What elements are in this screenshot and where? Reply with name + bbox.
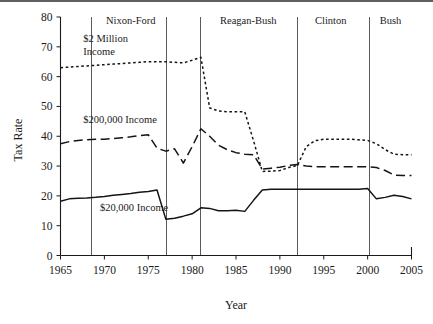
y-tick-label: 50 <box>41 100 53 112</box>
era-label-group: Nixon-FordReagan-BushClintonBush <box>106 15 402 26</box>
series-line-200-000-income <box>61 129 412 176</box>
series-path-group <box>61 57 412 219</box>
chart-canvas: Nixon-FordReagan-BushClintonBush 0102030… <box>0 0 433 324</box>
2-million-income-label: $2 MillionIncome <box>83 33 128 57</box>
x-tick-label: 1980 <box>181 264 204 276</box>
era-label-reagan-bush: Reagan-Bush <box>220 15 277 26</box>
series-annotation-group: $2 MillionIncome$200,000 Income$20,000 I… <box>83 33 168 212</box>
x-tick-label: 1965 <box>49 264 72 276</box>
era-label-bush: Bush <box>380 15 402 26</box>
x-tick-label: 1975 <box>137 264 160 276</box>
x-tick-label: 1995 <box>312 264 335 276</box>
y-tick-label: 60 <box>41 71 53 83</box>
y-tick-label: 10 <box>41 220 53 232</box>
20000-income-label: $20,000 Income <box>100 202 169 213</box>
x-tick-label: 1985 <box>225 264 248 276</box>
x-axis-title: Year <box>225 298 247 312</box>
x-tick-label: 1990 <box>268 264 291 276</box>
era-label-clinton: Clinton <box>315 15 347 26</box>
x-tick-label: 1970 <box>93 264 116 276</box>
y-tick-group: 01020304050607080 <box>41 11 61 262</box>
x-tick-label: 2000 <box>356 264 379 276</box>
y-tick-label: 30 <box>41 160 53 172</box>
era-label-nixon-ford: Nixon-Ford <box>106 15 156 26</box>
y-axis-title: Tax Rate <box>11 119 25 162</box>
y-tick-label: 70 <box>41 41 53 53</box>
200000-income-label: $200,000 Income <box>83 114 157 125</box>
y-tick-label: 40 <box>41 130 53 142</box>
y-tick-label: 20 <box>41 190 53 202</box>
x-tick-group: 196519701975198019851990199520002005 <box>49 256 423 276</box>
tax-rate-chart-figure: Nixon-FordReagan-BushClintonBush 0102030… <box>0 0 433 324</box>
y-tick-label: 80 <box>41 11 53 23</box>
y-tick-label: 0 <box>47 250 53 262</box>
x-tick-label: 2005 <box>400 264 423 276</box>
